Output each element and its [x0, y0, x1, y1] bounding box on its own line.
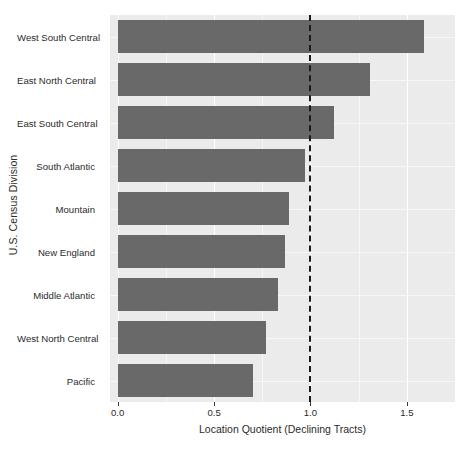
bar [118, 106, 334, 140]
y-tick-label: Mountain [17, 203, 104, 214]
bar [118, 20, 424, 54]
plot-panel [110, 15, 455, 402]
bar-chart-figure: U.S. Census Division West South CentralE… [0, 0, 466, 453]
y-tick-label: West North Central [17, 332, 104, 343]
reference-line-1-0 [309, 15, 311, 402]
bar [118, 149, 305, 183]
y-tick-label: East North Central [17, 74, 104, 85]
x-axis-title: Location Quotient (Declining Tracts) [110, 423, 455, 435]
x-tick-mark [310, 402, 311, 406]
x-tick-label: 1.5 [400, 407, 413, 418]
x-axis-ticks: 0.00.51.01.5 [110, 402, 455, 422]
x-tick-mark [118, 402, 119, 406]
bar [118, 278, 278, 312]
x-tick-mark [214, 402, 215, 406]
y-tick-label: South Atlantic [17, 160, 104, 171]
y-tick-label: New England [17, 246, 104, 257]
y-tick-label: East South Central [17, 117, 104, 128]
y-tick-label: West South Central [17, 31, 104, 42]
y-axis-tick-labels: West South CentralEast North CentralEast… [26, 15, 104, 402]
bar [118, 63, 370, 97]
x-tick-label: 1.0 [304, 407, 317, 418]
bar [118, 364, 253, 398]
y-tick-label: Middle Atlantic [17, 289, 104, 300]
x-tick-mark [407, 402, 408, 406]
bar [118, 192, 290, 226]
bar [118, 235, 286, 269]
bar [118, 321, 266, 355]
x-tick-label: 0.0 [111, 407, 124, 418]
y-tick-label: Pacific [17, 375, 104, 386]
x-tick-label: 0.5 [207, 407, 220, 418]
